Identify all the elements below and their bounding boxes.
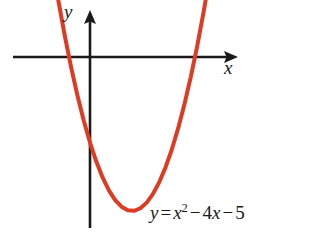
equation-var1: x — [173, 202, 181, 223]
equation-var2: x — [212, 202, 220, 223]
equation-label: y=x2−4x−5 — [150, 203, 245, 222]
equation-constant: 5 — [235, 202, 245, 223]
equation-equals: = — [158, 202, 173, 223]
x-axis-label: x — [224, 58, 232, 77]
equation-minus-2: − — [221, 202, 236, 223]
equation-coefficient: 4 — [203, 202, 213, 223]
equation-minus-1: − — [188, 202, 203, 223]
parabola-curve — [46, 0, 218, 211]
equation-exponent: 2 — [182, 201, 188, 215]
y-axis-label: y — [64, 2, 72, 21]
parabola-figure: y x y=x2−4x−5 — [0, 0, 310, 237]
